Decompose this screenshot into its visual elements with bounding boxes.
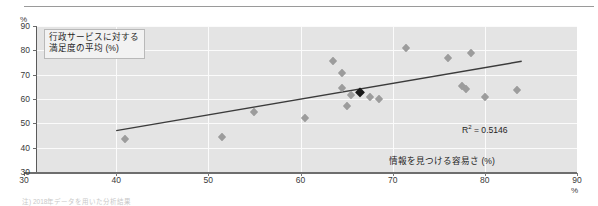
gridline-horizontal [37,99,577,100]
x-axis-unit-label: % [571,186,578,195]
y-tick [33,148,37,149]
y-tick [33,123,37,124]
gridline-horizontal [37,26,577,27]
y-tick-label: 70 [0,71,30,80]
x-tick-label: 40 [101,176,131,185]
y-tick [33,99,37,100]
y-axis-title: 行政サービスに対する 満足度の平均 (%) [44,29,145,59]
gridline-horizontal [37,75,577,76]
y-axis-unit-label: % [20,15,27,24]
y-tick-label: 80 [0,46,30,55]
y-tick [33,75,37,76]
chart-container: 30405060708090 30405060708090 % % 行政サービス… [0,0,598,206]
gridline-vertical [393,26,394,172]
gridline-vertical [208,26,209,172]
y-tick [33,26,37,27]
y-tick [33,172,37,173]
x-tick-label: 30 [9,176,39,185]
x-tick-label: 60 [286,176,316,185]
x-tick-label: 70 [378,176,408,185]
gridline-horizontal [37,148,577,149]
y-tick-label: 50 [0,119,30,128]
y-tick-label: 60 [0,95,30,104]
chart-footnote: 注) 2018年データを用いた分析結果 [22,196,131,206]
x-tick-label: 80 [470,176,500,185]
x-axis-title: 情報を見つける容易さ (%) [389,154,495,166]
x-tick-label: 50 [193,176,223,185]
y-tick-label: 40 [0,144,30,153]
y-tick [33,50,37,51]
gridline-vertical [301,26,302,172]
top-divider-rule [24,6,594,7]
r-squared-annotation: R2 = 0.5146 [462,124,508,135]
x-tick-label: 90 [562,176,592,185]
